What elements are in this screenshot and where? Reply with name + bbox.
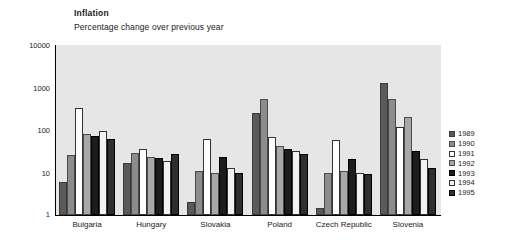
bar-groups — [55, 45, 440, 215]
bar-czech-republic-1993[interactable] — [348, 159, 356, 215]
bar-poland-1995[interactable] — [300, 154, 308, 216]
bar-slovakia-1995[interactable] — [235, 173, 243, 216]
bar-bulgaria-1995[interactable] — [107, 139, 115, 215]
category-label: Poland — [248, 220, 312, 230]
bar-slovakia-1993[interactable] — [219, 157, 227, 215]
bar-bulgaria-1991[interactable] — [75, 108, 83, 215]
bar-slovenia-1993[interactable] — [412, 151, 420, 215]
bar-poland-1994[interactable] — [292, 151, 300, 215]
legend-label: 1989 — [458, 130, 475, 138]
bar-group — [312, 45, 376, 215]
legend-swatch-icon — [449, 131, 455, 137]
category-label: Slovakia — [183, 220, 247, 230]
legend-swatch-icon — [449, 170, 455, 176]
bar-slovenia-1991[interactable] — [396, 127, 404, 215]
legend: 1989199019911992199319941995 — [449, 130, 475, 197]
bar-bulgaria-1989[interactable] — [59, 182, 67, 215]
category-label: Czech Republic — [312, 220, 376, 230]
bar-hungary-1995[interactable] — [171, 154, 179, 216]
bar-bulgaria-1992[interactable] — [83, 134, 91, 215]
bar-czech-republic-1992[interactable] — [340, 171, 348, 215]
legend-label: 1991 — [458, 150, 475, 158]
bar-bulgaria-1990[interactable] — [67, 155, 75, 215]
bar-slovenia-1994[interactable] — [420, 159, 428, 215]
bar-poland-1991[interactable] — [268, 137, 276, 215]
bar-slovakia-1992[interactable] — [211, 173, 219, 216]
bar-czech-republic-1989[interactable] — [316, 208, 324, 215]
bar-slovakia-1991[interactable] — [203, 139, 211, 215]
bar-bulgaria-1993[interactable] — [91, 136, 99, 215]
y-tick-label: 10 — [42, 168, 50, 177]
category-labels: BulgariaHungarySlovakiaPolandCzech Repub… — [55, 220, 440, 230]
bar-hungary-1991[interactable] — [139, 149, 147, 215]
bar-slovenia-1992[interactable] — [404, 117, 412, 215]
legend-label: 1990 — [458, 140, 475, 148]
bar-group — [248, 45, 312, 215]
bar-poland-1990[interactable] — [260, 99, 268, 215]
bar-hungary-1990[interactable] — [131, 153, 139, 215]
legend-item-1989[interactable]: 1989 — [449, 130, 475, 138]
legend-swatch-icon — [449, 141, 455, 147]
bar-hungary-1989[interactable] — [123, 163, 131, 215]
bar-group — [183, 45, 247, 215]
bar-slovenia-1995[interactable] — [428, 168, 436, 215]
x-axis-line — [55, 215, 441, 216]
bar-czech-republic-1995[interactable] — [364, 174, 372, 215]
y-tick-label: 1 — [46, 210, 50, 219]
bar-hungary-1994[interactable] — [163, 161, 171, 215]
legend-swatch-icon — [449, 151, 455, 157]
bar-czech-republic-1990[interactable] — [324, 173, 332, 216]
bar-group — [55, 45, 119, 215]
legend-swatch-icon — [449, 190, 455, 196]
category-label: Slovenia — [376, 220, 440, 230]
legend-item-1991[interactable]: 1991 — [449, 150, 475, 158]
legend-label: 1994 — [458, 179, 475, 187]
chart-subtitle: Percentage change over previous year — [74, 22, 224, 32]
bar-slovakia-1990[interactable] — [195, 171, 203, 215]
bar-slovakia-1994[interactable] — [227, 168, 235, 215]
bar-czech-republic-1994[interactable] — [356, 173, 364, 216]
category-label: Bulgaria — [55, 220, 119, 230]
y-axis: 100001000100101 — [0, 0, 50, 251]
bar-czech-republic-1991[interactable] — [332, 140, 340, 215]
category-label: Hungary — [119, 220, 183, 230]
bar-poland-1992[interactable] — [276, 146, 284, 215]
bar-poland-1989[interactable] — [252, 113, 260, 215]
chart-title: Inflation — [74, 8, 109, 18]
y-tick-label: 100 — [37, 126, 50, 135]
legend-label: 1993 — [458, 170, 475, 178]
legend-label: 1992 — [458, 160, 475, 168]
legend-item-1995[interactable]: 1995 — [449, 189, 475, 197]
y-tick-label: 10000 — [29, 41, 50, 50]
legend-swatch-icon — [449, 160, 455, 166]
legend-item-1993[interactable]: 1993 — [449, 170, 475, 178]
bar-hungary-1992[interactable] — [147, 157, 155, 215]
legend-item-1992[interactable]: 1992 — [449, 160, 475, 168]
legend-item-1994[interactable]: 1994 — [449, 179, 475, 187]
bar-slovenia-1989[interactable] — [380, 83, 388, 215]
legend-swatch-icon — [449, 180, 455, 186]
bar-hungary-1993[interactable] — [155, 158, 163, 215]
bar-bulgaria-1994[interactable] — [99, 131, 107, 215]
bar-group — [119, 45, 183, 215]
bar-slovakia-1989[interactable] — [187, 202, 195, 215]
legend-label: 1995 — [458, 189, 475, 197]
y-tick-label: 1000 — [33, 83, 50, 92]
bar-slovenia-1990[interactable] — [388, 99, 396, 215]
bar-poland-1993[interactable] — [284, 149, 292, 215]
bar-group — [376, 45, 440, 215]
legend-item-1990[interactable]: 1990 — [449, 140, 475, 148]
chart-figure: Inflation Percentage change over previou… — [0, 0, 505, 251]
